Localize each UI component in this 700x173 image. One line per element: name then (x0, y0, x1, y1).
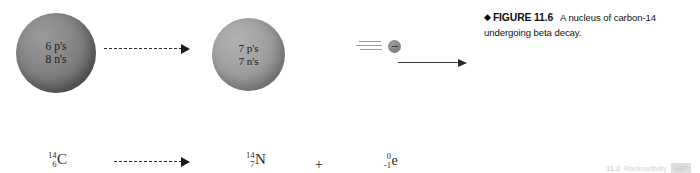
footer-page-number: 447 (671, 163, 692, 173)
element-symbol: e (392, 153, 398, 168)
element-symbol: C (57, 151, 67, 167)
page-footer: 11.2 Radioactivity 447 (606, 163, 691, 173)
arrow-shaft (114, 161, 182, 162)
speed-lines-icon (356, 41, 384, 53)
arrow-head-icon (458, 59, 467, 67)
electron-particle-icon (388, 40, 401, 53)
nuclide-carbon-14: 14 6 C (48, 150, 67, 168)
footer-section-title: Radioactivity (624, 164, 667, 173)
arrow-shaft (104, 48, 182, 49)
carbon-protons-label: 6 p's (46, 40, 67, 53)
nuclide-nitrogen-14: 14 7 N (246, 150, 266, 168)
nuclide-beta-electron: 0 -1 e (384, 152, 398, 169)
minus-sign-icon (392, 46, 398, 47)
figure-stage: 6 p's 8 n's 7 p's 7 n's ◆FIGURE 11.6A nu… (0, 0, 700, 173)
beta-motion-arrow (398, 58, 468, 67)
figure-number-label: FIGURE 11.6 (493, 12, 553, 23)
nitrogen-protons-label: 7 p's (238, 42, 258, 54)
equation-arrow (114, 157, 190, 167)
carbon-14-nucleus: 6 p's 8 n's (16, 13, 96, 93)
carbon-neutrons-label: 8 n's (46, 53, 67, 66)
arrow-head-icon (181, 44, 190, 54)
arrow-head-icon (181, 157, 190, 167)
atomic-number: -1 (384, 161, 391, 170)
atomic-number: 7 (246, 160, 255, 169)
element-symbol: N (255, 151, 266, 167)
nitrogen-14-nucleus: 7 p's 7 n's (212, 18, 285, 91)
figure-caption: ◆FIGURE 11.6A nucleus of carbon-14 under… (484, 11, 696, 39)
arrow-shaft (398, 62, 460, 63)
beta-particle-group (356, 38, 408, 56)
nuclide-indices: 14 6 (48, 151, 57, 168)
nitrogen-neutrons-label: 7 n's (238, 55, 258, 67)
footer-section-number: 11.2 (606, 164, 620, 173)
nuclide-indices: 0 -1 (384, 152, 391, 169)
equation-plus-sign: + (315, 157, 323, 173)
atomic-number: 6 (48, 160, 57, 169)
diamond-bullet-icon: ◆ (484, 12, 491, 22)
decay-arrow-top (104, 44, 190, 54)
nuclide-indices: 14 7 (246, 151, 255, 168)
